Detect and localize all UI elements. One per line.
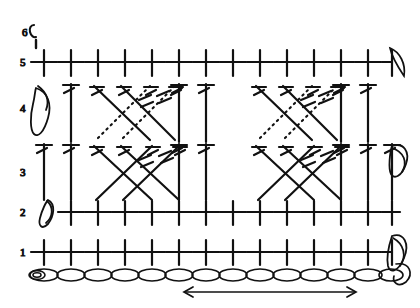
chart-canvas: 6 5 4: [0, 0, 420, 308]
row-label-2: 2: [20, 206, 26, 218]
row-label-6: 6: [22, 26, 28, 38]
row-label-5: 5: [20, 56, 26, 68]
row-label-1: 1: [20, 246, 26, 258]
row-label-4: 4: [20, 102, 26, 114]
row-label-3: 3: [20, 166, 26, 178]
crochet-chart: 6 5 4: [0, 0, 420, 308]
chart-background: [0, 0, 420, 308]
